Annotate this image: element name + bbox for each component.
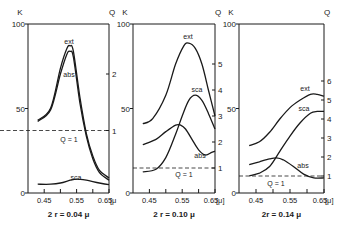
- x-unit-label: [μ]: [325, 196, 334, 205]
- panel-caption: 2r = 0.14 μ: [262, 210, 301, 219]
- series-label: ext: [300, 85, 309, 92]
- q-equals-1-label: Q = 1: [175, 171, 192, 179]
- q-tick-label: 1: [112, 127, 117, 136]
- x-unit-label: [μ: [110, 196, 116, 205]
- q-tick-label: 2: [112, 70, 117, 79]
- q-equals-1-label: Q = 1: [267, 180, 284, 188]
- curve-ext: [38, 45, 109, 178]
- x-unit-label: [μ]: [216, 196, 225, 205]
- k-tick-label: 50: [121, 105, 130, 114]
- series-label: sca: [299, 105, 310, 112]
- axes-frame: [239, 24, 324, 193]
- curve-sca: [143, 95, 215, 172]
- series-label: sca: [71, 174, 82, 181]
- x-tick-label: 0.45: [249, 196, 264, 205]
- q-tick-label: 2: [218, 138, 223, 147]
- panel-caption: 2 r = 0.04 μ: [48, 210, 90, 219]
- q-tick-label: 3: [327, 134, 332, 143]
- panel-caption: 2 r = 0.10 μ: [153, 210, 195, 219]
- q-tick-label: 2: [327, 153, 332, 162]
- series-label: ext: [64, 38, 73, 45]
- q-tick-label: 1: [327, 172, 332, 181]
- curve-sca: [249, 111, 324, 176]
- k-tick-label: 100: [12, 20, 26, 29]
- q-axis-label: Q: [324, 8, 330, 17]
- k-axis-label: K: [122, 8, 128, 17]
- q-tick-label: 5: [218, 60, 223, 69]
- q-tick-label: 4: [327, 115, 332, 124]
- x-tick-label: 0.55: [175, 196, 190, 205]
- k-tick-label: 0: [126, 189, 131, 198]
- chart-panel-3: KQ0501001234560.450.550.65[μ]2r = 0.14 μ…: [223, 8, 334, 219]
- q-tick-label: 4: [218, 86, 223, 95]
- q-tick-label: 6: [327, 77, 332, 86]
- q-tick-label: 5: [327, 96, 332, 105]
- curve-abs: [249, 158, 324, 178]
- panels-group: KQ050100120.450.550.65[μ2 r = 0.04 μQ = …: [0, 8, 334, 219]
- q-axis-label: Q: [215, 8, 221, 17]
- x-tick-label: 0.55: [69, 196, 84, 205]
- chart-panel-2: KQ050100123450.450.550.65[μ]2 r = 0.10 μ…: [117, 8, 225, 219]
- k-axis-label: K: [17, 8, 23, 17]
- curve-ext: [143, 43, 215, 124]
- curve-ext: [249, 94, 324, 146]
- series-label: sca: [192, 86, 203, 93]
- k-tick-label: 50: [16, 105, 25, 114]
- mie-efficiency-figure: KQ050100120.450.550.65[μ2 r = 0.04 μQ = …: [0, 0, 355, 227]
- q-axis-label: Q: [109, 8, 115, 17]
- k-axis-label: K: [228, 8, 234, 17]
- x-tick-label: 0.55: [283, 196, 298, 205]
- k-tick-label: 100: [223, 20, 237, 29]
- q-tick-label: 3: [218, 112, 223, 121]
- curve-abs: [143, 124, 215, 155]
- x-tick-label: 0.45: [142, 196, 157, 205]
- k-tick-label: 0: [232, 189, 237, 198]
- series-label: abs: [63, 71, 75, 78]
- series-label: abs: [194, 152, 206, 159]
- k-tick-label: 100: [117, 20, 131, 29]
- chart-panel-1: KQ050100120.450.550.65[μ2 r = 0.04 μQ = …: [0, 8, 117, 219]
- q-tick-label: 1: [218, 164, 223, 173]
- k-tick-label: 0: [21, 189, 26, 198]
- x-tick-label: 0.45: [37, 196, 52, 205]
- q-equals-1-label: Q = 1: [60, 136, 77, 144]
- series-label: ext: [183, 33, 192, 40]
- series-label: abs: [297, 162, 309, 169]
- k-tick-label: 50: [227, 105, 236, 114]
